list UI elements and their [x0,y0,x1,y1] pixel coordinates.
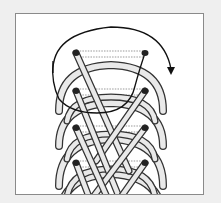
diagram-panel [15,13,204,195]
eyelet-3-right [142,125,149,131]
eyelet-1-left [73,50,80,56]
eyelet-2-left [73,88,80,94]
eyelet-4-left [73,160,80,166]
eyelet-2-right [142,88,149,94]
lacing-diagram [16,14,204,195]
eyelet-4-right [142,160,149,166]
eyelet-1-right [142,50,149,56]
eyelet-3-left [73,125,80,131]
